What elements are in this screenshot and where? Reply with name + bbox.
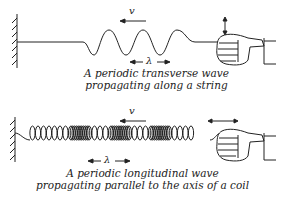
wavelength-label: λ — [104, 154, 110, 165]
string-wave — [17, 30, 222, 55]
wavelength-label: λ — [146, 55, 152, 66]
coil-lead-left — [15, 133, 30, 140]
wall-icon — [12, 14, 17, 68]
velocity-label: v — [129, 5, 135, 16]
velocity-arrow-icon — [120, 19, 146, 23]
hand-icon — [217, 129, 276, 161]
vertical-motion-arrow-icon — [223, 17, 227, 35]
velocity-arrow-icon — [120, 119, 146, 123]
horizontal-motion-arrow-icon — [208, 119, 238, 123]
wall-icon — [10, 117, 15, 162]
coil-spring — [30, 126, 194, 140]
caption-line-1: A periodic transverse wave — [14, 67, 285, 79]
caption-line-2: propagating parallel to the axis of a co… — [0, 179, 285, 191]
hand-icon — [217, 34, 276, 65]
velocity-label: v — [129, 105, 135, 116]
caption-line-2: propagating along a string — [14, 79, 285, 91]
transverse-wave-diagram: v λ A periodic transverse wave propagati… — [0, 0, 285, 97]
longitudinal-wave-diagram: v λ A periodic longitudinal wave propaga… — [0, 100, 285, 197]
caption-line-1: A periodic longitudinal wave — [0, 167, 285, 179]
